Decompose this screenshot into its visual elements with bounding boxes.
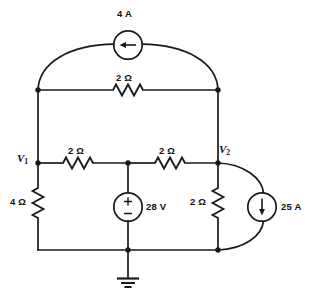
wire-25a-arc-lower [218, 221, 264, 250]
node-dot-top-right [215, 87, 220, 92]
node-dot-v1 [35, 160, 40, 165]
node-dot-middle [125, 160, 130, 165]
node-dot-top-left [35, 87, 40, 92]
resistor-2ohm-vertical-body [213, 188, 224, 218]
label-resistor-2ohm-vertical: 2 Ω [190, 196, 206, 207]
voltage-source-28v-body [114, 193, 142, 221]
node-dot-v2 [215, 160, 220, 165]
label-source-4a: 4 A [117, 8, 132, 19]
resistor-right-branch-2ohm-body [155, 158, 185, 169]
label-resistor-right-branch-2ohm: 2 Ω [159, 145, 175, 156]
label-voltage-source-28v: 28 V [146, 201, 166, 212]
label-resistor-left-branch-2ohm: 2 Ω [68, 145, 84, 156]
node-dot-bottom-right [215, 247, 220, 252]
label-current-source-25a: 25 A [281, 201, 302, 212]
wire-25a-arc-upper [218, 163, 264, 193]
label-node-v2: V2 [219, 143, 230, 155]
resistor-left-branch-2ohm-body [63, 158, 93, 169]
wire-top-arc-left [38, 44, 114, 90]
label-node-v2-subscript: 2 [226, 148, 230, 157]
resistor-4ohm-body [33, 188, 44, 218]
label-resistor-top-2ohm: 2 Ω [116, 72, 132, 83]
wire-top-arc-right [142, 44, 218, 90]
label-node-v1: V1 [17, 152, 28, 164]
label-node-v1-subscript: 1 [24, 157, 28, 166]
label-resistor-4ohm: 4 Ω [10, 196, 26, 207]
resistor-top-2ohm-body [113, 85, 143, 96]
circuit-diagram: 4 A 2 Ω 2 Ω 2 Ω 4 Ω 2 Ω 28 V 25 A V1 V2 [0, 0, 320, 303]
node-dot-ground [125, 247, 130, 252]
